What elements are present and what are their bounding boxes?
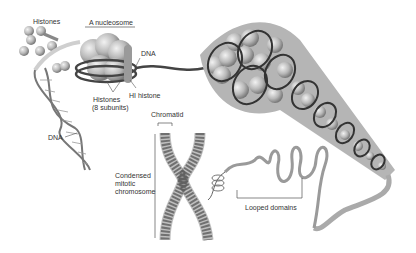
- label-looped-domains: Looped domains: [245, 204, 297, 212]
- label-condensed: Condensed: [115, 172, 151, 180]
- h1-histone: [124, 45, 132, 83]
- chromatid-bracket: [158, 123, 172, 126]
- label-histones-subunits: Histones: [93, 96, 120, 104]
- label-chromatid: Chromatid: [151, 111, 183, 119]
- free-histones: [19, 26, 70, 73]
- fiber-tail: [314, 175, 389, 229]
- nucleosome: [76, 27, 136, 83]
- looped-domains: [225, 147, 327, 228]
- linker-dna: [136, 66, 205, 69]
- label-histones-subunits-count: (8 subunits): [92, 104, 129, 112]
- looped-domains-bracket: [237, 178, 302, 198]
- label-nucleosome: A nucleosome: [89, 19, 133, 27]
- condensed-chromosome: [165, 133, 208, 240]
- label-dna-helix: DNA: [48, 134, 63, 142]
- label-histones: Histones: [33, 18, 60, 26]
- label-h1-histone: HI histone: [129, 92, 161, 100]
- dna-double-helix: [35, 68, 90, 170]
- dna-packaging-diagram: [0, 0, 416, 253]
- label-mitotic: mitotic: [115, 180, 135, 188]
- chromatin-fiber: [200, 22, 395, 180]
- label-chromosome: chromosome: [115, 188, 155, 196]
- label-dna-linker: DNA: [141, 50, 156, 58]
